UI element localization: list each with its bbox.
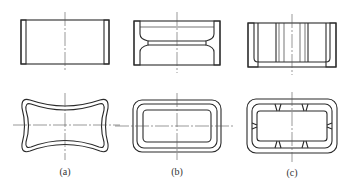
panel-c: (c) <box>247 14 337 179</box>
panel-b-section-view <box>134 12 220 73</box>
panel-b: (b) <box>115 12 233 178</box>
panel-b-plan-view <box>115 93 233 160</box>
panel-c-section-view <box>248 14 336 75</box>
panel-a: (a) <box>13 12 120 178</box>
panel-c-label: (c) <box>286 167 297 179</box>
technical-figure: (a) (b) <box>0 0 349 191</box>
panel-a-label: (a) <box>59 166 70 178</box>
panel-a-plan-view <box>13 93 120 160</box>
panel-b-label: (b) <box>171 166 183 178</box>
panel-a-section-view <box>21 12 109 72</box>
panel-c-plan-view <box>247 92 337 162</box>
